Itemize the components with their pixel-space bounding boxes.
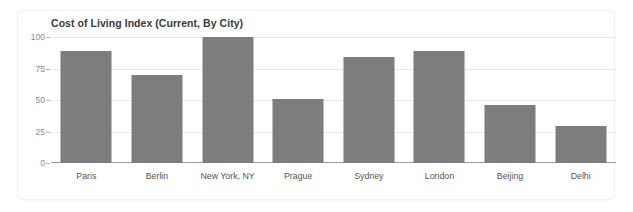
bar[interactable] — [61, 51, 112, 163]
bar-group[interactable]: Berlin — [122, 37, 193, 163]
chart-title: Cost of Living Index (Current, By City) — [51, 17, 243, 29]
x-axis-label: Berlin — [146, 171, 169, 181]
bar[interactable] — [202, 37, 253, 163]
x-axis-label: Paris — [76, 171, 96, 181]
y-tick-label: 25 — [36, 127, 45, 137]
bar-group[interactable]: Beijing — [475, 37, 546, 163]
y-tick-label: 75 — [36, 64, 45, 74]
bar-group[interactable]: Prague — [263, 37, 334, 163]
plot-area: 0255075100 ParisBerlinNew York, NYPrague… — [51, 37, 616, 163]
y-tick-mark — [46, 132, 50, 133]
bar[interactable] — [131, 75, 182, 163]
y-tick-mark — [46, 163, 50, 164]
bar-group[interactable]: Sydney — [334, 37, 405, 163]
y-tick-label: 50 — [36, 95, 45, 105]
bar-group[interactable]: London — [404, 37, 475, 163]
y-tick-label: 100 — [31, 32, 45, 42]
y-tick-mark — [46, 100, 50, 101]
y-tick-label: 0 — [40, 158, 45, 168]
y-tick-mark — [46, 69, 50, 70]
bar[interactable] — [414, 51, 465, 163]
bar[interactable] — [555, 126, 606, 163]
chart-card: Cost of Living Index (Current, By City) … — [17, 10, 615, 200]
bar[interactable] — [273, 99, 324, 163]
bars-layer: ParisBerlinNew York, NYPragueSydneyLondo… — [51, 37, 616, 163]
bar-group[interactable]: New York, NY — [192, 37, 263, 163]
x-axis-label: Prague — [284, 171, 312, 181]
bar[interactable] — [485, 105, 536, 163]
bar[interactable] — [343, 57, 394, 163]
x-axis-label: Beijing — [497, 171, 523, 181]
bar-group[interactable]: Delhi — [545, 37, 616, 163]
y-tick-mark — [46, 37, 50, 38]
x-axis-label: Sydney — [354, 171, 383, 181]
x-axis-label: New York, NY — [200, 171, 254, 181]
bar-group[interactable]: Paris — [51, 37, 122, 163]
x-axis-label: Delhi — [571, 171, 591, 181]
x-axis-label: London — [425, 171, 454, 181]
